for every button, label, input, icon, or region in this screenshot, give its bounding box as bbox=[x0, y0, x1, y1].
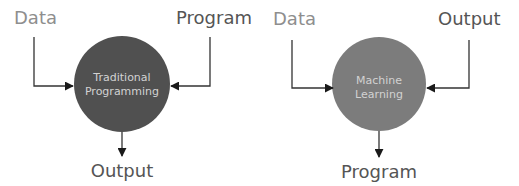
node-label-line2: Programming bbox=[85, 85, 159, 98]
input-data-label: Data bbox=[14, 7, 57, 28]
data-arrow-icon bbox=[292, 40, 333, 88]
data-arrow-icon bbox=[34, 37, 73, 86]
input-program-label: Program bbox=[176, 7, 252, 28]
input-output-label: Output bbox=[438, 8, 501, 29]
node-label-line2: Learning bbox=[355, 88, 403, 101]
traditional-programming-node bbox=[74, 36, 170, 132]
output-label: Output bbox=[91, 160, 154, 181]
node-label-line1: Machine bbox=[356, 74, 402, 87]
program-label: Program bbox=[341, 161, 417, 182]
traditional-programming-diagram: Traditional Programming Data Program Out… bbox=[14, 7, 252, 181]
input-data-label: Data bbox=[273, 8, 316, 29]
node-label-line1: Traditional bbox=[92, 71, 150, 84]
program-arrow-icon bbox=[171, 37, 210, 86]
diagram-canvas: Traditional Programming Data Program Out… bbox=[0, 0, 519, 186]
output-arrow-icon bbox=[427, 40, 469, 88]
machine-learning-diagram: Machine Learning Data Output Program bbox=[273, 8, 501, 182]
